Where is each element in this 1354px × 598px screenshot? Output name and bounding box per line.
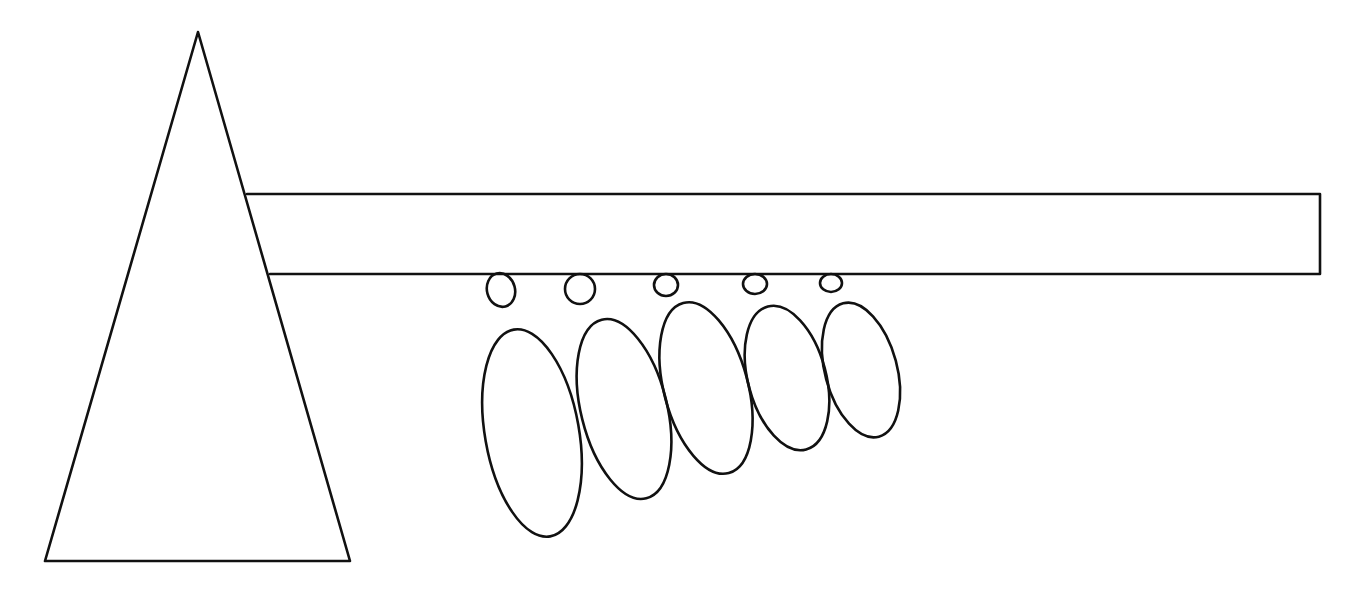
- diagram-canvas: [0, 0, 1354, 598]
- line-drawing: [0, 0, 1354, 598]
- background: [0, 0, 1354, 598]
